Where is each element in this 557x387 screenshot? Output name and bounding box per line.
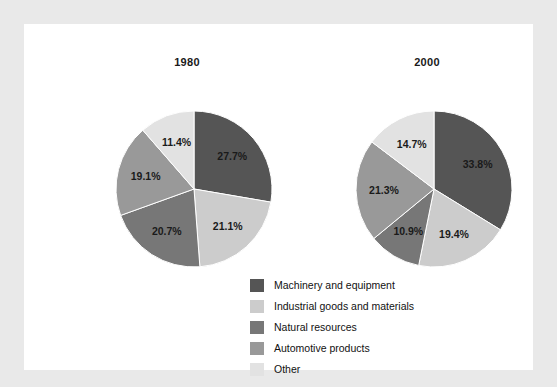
pie-chart-1980: 27.7%21.1%20.7%19.1%11.4% [109, 104, 279, 274]
pie-slice-label: 27.7% [217, 150, 247, 162]
pie-slice-label: 19.1% [131, 170, 161, 182]
chart-panel: 1980 2000 27.7%21.1%20.7%19.1%11.4% 33.8… [24, 24, 533, 370]
legend-item: Automotive products [250, 338, 414, 359]
legend-swatch [250, 279, 264, 292]
legend-swatch [250, 363, 264, 376]
figure-canvas: 1980 2000 27.7%21.1%20.7%19.1%11.4% 33.8… [0, 0, 557, 387]
legend-item: Industrial goods and materials [250, 296, 414, 317]
legend-item: Natural resources [250, 317, 414, 338]
pie-title-2000: 2000 [367, 56, 487, 68]
legend-label: Automotive products [274, 343, 370, 354]
pie-slice-label: 21.3% [369, 184, 399, 196]
pie-slice-label: 19.4% [439, 228, 469, 240]
pie-slice-label: 11.4% [162, 136, 192, 148]
legend-label: Industrial goods and materials [274, 301, 414, 312]
legend-label: Machinery and equipment [274, 280, 395, 291]
legend-item: Machinery and equipment [250, 275, 414, 296]
pie-slice-label: 10.9% [393, 225, 423, 237]
legend-label: Other [274, 364, 300, 375]
legend-swatch [250, 342, 264, 355]
pie-title-1980: 1980 [127, 56, 247, 68]
pie-slice-label: 14.7% [397, 138, 427, 150]
legend-item: Other [250, 359, 414, 380]
pie-slice-label: 33.8% [463, 158, 493, 170]
legend: Machinery and equipmentIndustrial goods … [250, 275, 414, 380]
legend-swatch [250, 321, 264, 334]
legend-swatch [250, 300, 264, 313]
pie-chart-2000: 33.8%19.4%10.9%21.3%14.7% [349, 104, 519, 274]
pie-slice-label: 20.7% [152, 225, 182, 237]
legend-label: Natural resources [274, 322, 357, 333]
pie-slice-label: 21.1% [213, 220, 243, 232]
